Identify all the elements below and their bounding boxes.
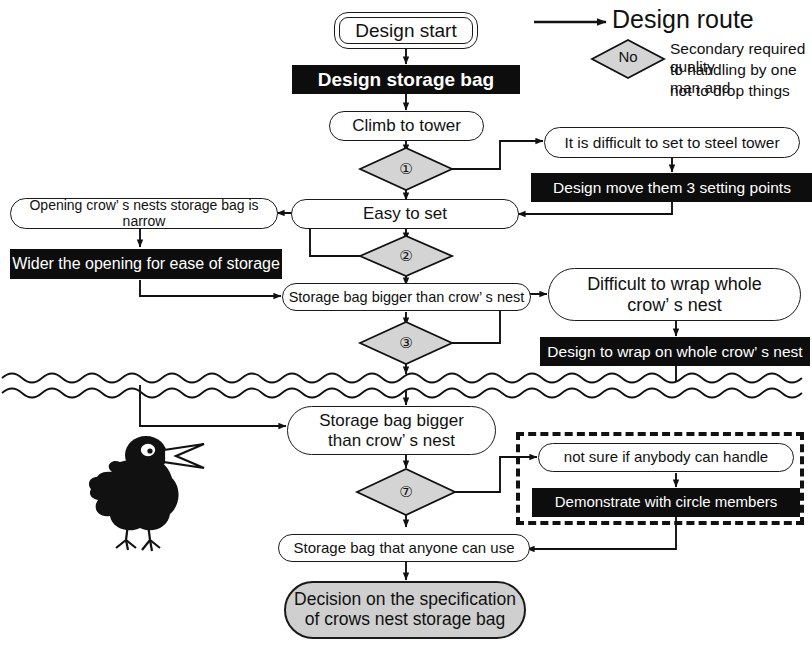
node-bag-anyone-can-use[interactable]: Storage bag that anyone can use — [278, 534, 530, 562]
decision-7-label: ⑦ — [357, 469, 455, 515]
flowchart-canvas: Design route No Secondary required quali… — [0, 0, 812, 666]
legend-route-label: Design route — [612, 5, 754, 34]
node-bag-bigger-than-nest-2[interactable]: Storage bag bigger than crow’ s nest — [287, 406, 496, 455]
node-design-move-3-points[interactable]: Design move them 3 setting points — [531, 173, 812, 202]
legend-diamond-label: No — [592, 48, 664, 65]
crow-bird-illustration — [89, 436, 204, 551]
node-difficult-to-wrap[interactable]: Difficult to wrap whole crow’ s nest — [548, 268, 801, 321]
decision-1[interactable]: ① — [360, 148, 452, 190]
node-design-start[interactable]: Design start — [334, 12, 478, 49]
node-bag-bigger-than-nest-1[interactable]: Storage bag bigger than crow’ s nest — [282, 283, 531, 311]
decision-3[interactable]: ③ — [360, 322, 452, 364]
node-difficult-steel-tower[interactable]: It is difficult to set to steel tower — [544, 127, 800, 158]
node-opening-narrow[interactable]: Opening crow’ s nests storage bag is nar… — [10, 198, 278, 229]
legend-decision-desc-line-3: not to drop things — [670, 82, 790, 100]
decision-7[interactable]: ⑦ — [357, 469, 455, 515]
node-easy-to-set[interactable]: Easy to set — [291, 199, 519, 229]
node-design-start-label: Design start — [339, 17, 473, 44]
node-design-storage-bag[interactable]: Design storage bag — [292, 65, 520, 94]
decision-1-label: ① — [360, 148, 452, 190]
node-wider-opening[interactable]: Wider the opening for ease of storage — [10, 249, 282, 279]
decision-2[interactable]: ② — [360, 236, 452, 276]
node-climb-to-tower[interactable]: Climb to tower — [329, 111, 484, 141]
decision-3-label: ③ — [360, 322, 452, 364]
decision-2-label: ② — [360, 236, 452, 276]
node-not-sure-handle[interactable]: not sure if anybody can handle — [538, 443, 794, 472]
node-final-decision[interactable]: Decision on the specification of crows n… — [284, 581, 526, 639]
node-demonstrate-circle[interactable]: Demonstrate with circle members — [532, 488, 800, 517]
section-break-wave — [2, 374, 802, 398]
node-design-to-wrap[interactable]: Design to wrap on whole crow’ s nest — [540, 337, 810, 366]
